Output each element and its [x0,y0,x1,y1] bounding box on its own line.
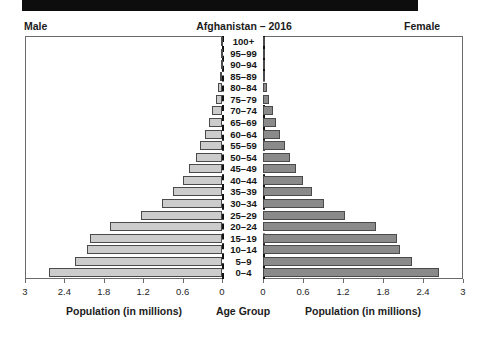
male-bar [200,141,222,150]
female-bar [263,187,312,196]
female-bar [263,37,265,46]
female-bar [263,141,285,150]
table-row: 30–34 [0,198,488,210]
age-group-label: 25–29 [224,210,263,222]
table-row: 85–89 [0,71,488,83]
table-row: 80–84 [0,82,488,94]
male-bar [212,106,222,115]
age-group-label: 40–44 [224,175,263,187]
age-group-label: 80–84 [224,82,263,94]
table-row: 55–59 [0,140,488,152]
axis-tick-label: 3 [460,286,465,297]
left-axis-caption: Population (in millions) [66,305,182,317]
male-bar [49,268,222,277]
male-bar [162,199,222,208]
male-bar [218,83,222,92]
female-bar [263,176,303,185]
axis-tick-label: 1.8 [97,286,110,297]
axis-tick-label: 2.4 [416,286,429,297]
table-row: 90–94 [0,59,488,71]
female-bar [263,199,324,208]
table-row: 65–69 [0,117,488,129]
axis-tick-label: 2.4 [58,286,71,297]
axis-tick-label: 1.2 [336,286,349,297]
axis-tick [104,279,105,283]
axis-tick [263,279,264,283]
pyramid-bar-rows: 100+95–9990–9485–8980–8475–7970–7465–696… [0,36,488,279]
female-side-label: Female [404,20,440,32]
axis-tick-label: 0.6 [296,286,309,297]
axis-tick-label: 0 [260,286,265,297]
age-group-label: 75–79 [224,94,263,106]
male-bar [173,187,222,196]
male-bar [110,222,222,231]
male-bar [221,60,223,69]
table-row: 45–49 [0,163,488,175]
table-row: 5–9 [0,256,488,268]
female-bar [263,257,412,266]
male-bar [141,211,222,220]
table-row: 25–29 [0,210,488,222]
age-group-label: 10–14 [224,244,263,256]
axis-tick-label: 0.6 [176,286,189,297]
table-row: 100+ [0,36,488,48]
age-group-label: 0–4 [224,267,263,279]
axis-tick-label: 1.8 [376,286,389,297]
female-bar [263,222,376,231]
male-bar [87,245,222,254]
age-group-label: 55–59 [224,140,263,152]
male-bar [196,153,222,162]
table-row: 60–64 [0,129,488,141]
male-bar [75,257,222,266]
age-group-label: 60–64 [224,129,263,141]
female-bar [263,60,265,69]
axis-tick [64,279,65,283]
female-bar [263,245,400,254]
male-bar [216,95,222,104]
male-bar [90,234,222,243]
female-bar [263,49,265,58]
female-bar [263,234,397,243]
male-bar [209,118,222,127]
table-row: 10–14 [0,244,488,256]
male-bar [221,37,223,46]
age-group-label: 5–9 [224,256,263,268]
center-axis-caption: Age Group [216,305,270,317]
female-bar [263,106,273,115]
age-group-label: 35–39 [224,186,263,198]
male-bar [221,49,223,58]
female-bar [263,211,345,220]
female-bar [263,268,439,277]
male-bar [183,176,222,185]
axis-tick [343,279,344,283]
table-row: 75–79 [0,94,488,106]
axis-tick [383,279,384,283]
axis-tick [463,279,464,283]
age-group-label: 45–49 [224,163,263,175]
male-bar [189,164,222,173]
male-bar [205,130,222,139]
female-bar [263,164,296,173]
table-row: 50–54 [0,152,488,164]
age-group-label: 95–99 [224,48,263,60]
age-group-label: 30–34 [224,198,263,210]
table-row: 15–19 [0,233,488,245]
axis-tick [143,279,144,283]
age-group-label: 85–89 [224,71,263,83]
table-row: 20–24 [0,221,488,233]
age-group-label: 90–94 [224,59,263,71]
axis-tick-label: 1.2 [137,286,150,297]
age-group-label: 65–69 [224,117,263,129]
female-bar [263,118,276,127]
axis-tick-label: 3 [22,286,27,297]
axis-tick [303,279,304,283]
age-group-label: 100+ [224,36,263,48]
age-group-label: 70–74 [224,105,263,117]
right-axis-caption: Population (in millions) [305,305,421,317]
male-bar [220,72,222,81]
age-group-label: 15–19 [224,233,263,245]
age-group-label: 50–54 [224,152,263,164]
axis-tick [183,279,184,283]
age-group-label: 20–24 [224,221,263,233]
population-pyramid-chart: Male Afghanistan – 2016 Female 100+95–99… [0,0,488,337]
